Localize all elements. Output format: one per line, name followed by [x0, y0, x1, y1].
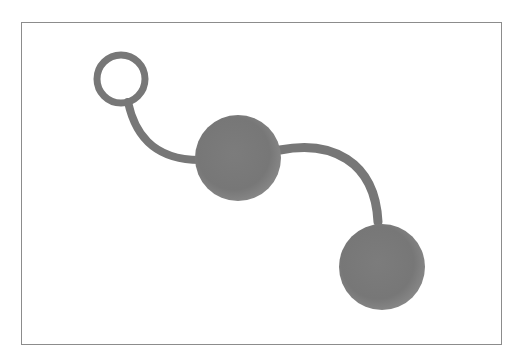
ball-upper — [195, 115, 281, 201]
cord-lower — [280, 148, 378, 222]
ball-lower — [339, 224, 425, 310]
retrieval-ring — [97, 55, 145, 103]
product-illustration — [0, 0, 525, 363]
cord-upper — [128, 102, 200, 160]
